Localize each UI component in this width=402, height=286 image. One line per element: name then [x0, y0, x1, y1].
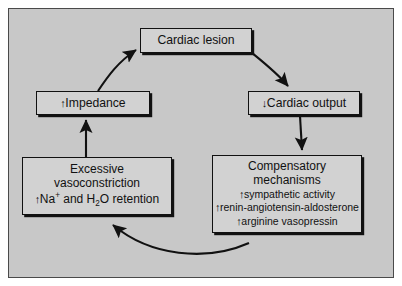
node-compensatory-line2: mechanisms: [253, 174, 320, 188]
sodium-symbol: Na: [40, 192, 55, 206]
node-vasoconstriction-line1: Excessive: [70, 163, 124, 177]
node-cardiac-lesion: Cardiac lesion: [140, 28, 252, 53]
node-cardiac-lesion-label: Cardiac lesion: [157, 33, 234, 47]
node-vasoconstriction-retention: ↑Na+ and H2O retention: [35, 191, 159, 209]
compensatory-item-label: arginine vasopressin: [241, 215, 337, 227]
node-cardiac-output-text: ↓Cardiac output: [262, 96, 346, 110]
edge-lesion-to-output: [252, 53, 288, 86]
compensatory-item: ↑sympathetic activity: [239, 188, 335, 201]
edge-impedance-to-lesion: [98, 50, 136, 91]
node-vasoconstriction: Excessive vasoconstriction ↑Na+ and H2O …: [22, 157, 172, 215]
node-vasoconstriction-line2: vasoconstriction: [54, 177, 140, 191]
compensatory-item-label: sympathetic activity: [244, 188, 335, 200]
compensatory-item-label: renin-angiotensin-aldosterone: [220, 201, 359, 213]
figure-canvas: Cardiac lesion ↑Impedance ↓Cardiac outpu…: [0, 0, 402, 286]
compensatory-item: ↑arginine vasopressin: [236, 215, 337, 228]
node-cardiac-output-label: Cardiac output: [267, 96, 346, 110]
retention-mid: and H: [60, 192, 95, 206]
node-compensatory-line1: Compensatory: [248, 160, 326, 174]
compensatory-item: ↑renin-angiotensin-aldosterone: [215, 201, 359, 214]
node-cardiac-output: ↓Cardiac output: [248, 91, 360, 115]
node-impedance: ↑Impedance: [36, 91, 150, 115]
retention-tail: O retention: [100, 192, 159, 206]
edge-output-to-compensatory: [300, 116, 302, 150]
node-compensatory-mechanisms: Compensatory mechanisms ↑sympathetic act…: [212, 155, 362, 233]
node-impedance-label: Impedance: [65, 96, 125, 110]
node-impedance-text: ↑Impedance: [60, 96, 125, 110]
